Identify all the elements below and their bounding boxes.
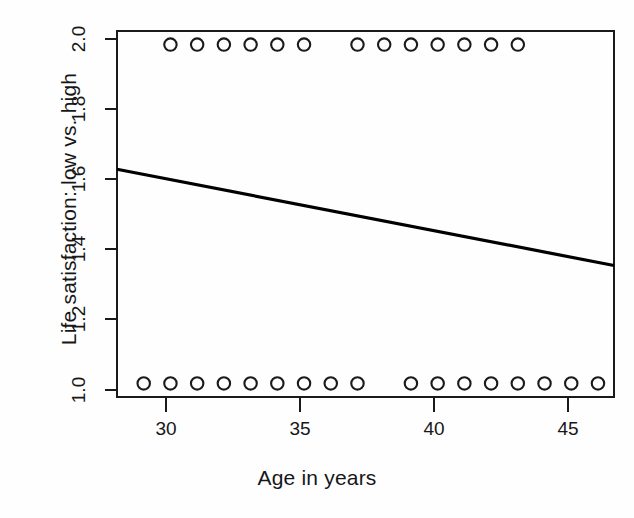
data-point [164,38,176,50]
data-point [485,38,497,50]
data-point [325,377,337,389]
data-point [512,38,524,50]
data-point [244,38,256,50]
data-point [164,377,176,389]
data-point [271,377,283,389]
x-tick-label-40: 40 [404,418,464,440]
scatter-plot-canvas [0,0,634,518]
data-point [191,38,203,50]
data-point [512,377,524,389]
data-point [298,377,310,389]
y-axis-title-wrapper: Life satisfaction: low vs. high [57,0,91,419]
y-axis-title: Life satisfaction: low vs. high [57,73,81,345]
data-point [431,38,443,50]
x-axis-ticks [166,397,568,412]
data-point [351,377,363,389]
data-point [565,377,577,389]
x-tick-label-30: 30 [136,418,196,440]
data-point [592,377,604,389]
data-point [351,38,363,50]
data-point [138,377,150,389]
y-axis-ticks [105,39,117,390]
x-tick-label-35: 35 [270,418,330,440]
data-point [191,377,203,389]
data-point [485,377,497,389]
x-axis-title: Age in years [0,466,634,490]
plot-area-frame [117,31,614,397]
data-point [218,38,230,50]
data-point [458,377,470,389]
data-point [244,377,256,389]
regression-line [117,169,614,265]
data-point [431,377,443,389]
data-point [298,38,310,50]
data-point [378,38,390,50]
data-point [458,38,470,50]
data-points-layer [138,38,605,389]
data-point [405,377,417,389]
data-point [271,38,283,50]
chart-figure: 30 35 40 45 2.0 1.8 1.6 1.4 1.2 1.0 Age … [0,0,634,518]
data-point [405,38,417,50]
data-point [218,377,230,389]
data-point [538,377,550,389]
x-tick-label-45: 45 [538,418,598,440]
